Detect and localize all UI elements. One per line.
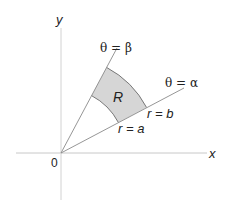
ray-beta-label: θ = β (100, 41, 132, 55)
y-axis-label: y (55, 12, 64, 27)
arc-b-label: r = b (147, 106, 173, 121)
x-axis-label: x (208, 146, 216, 161)
polar-region-diagram: y x 0 θ = β θ = α R r = b r = a (0, 0, 229, 208)
origin-label: 0 (51, 156, 58, 170)
ray-alpha-label: θ = α (165, 76, 198, 90)
arc-a-label: r = a (118, 121, 144, 136)
region-label: R (113, 89, 123, 105)
